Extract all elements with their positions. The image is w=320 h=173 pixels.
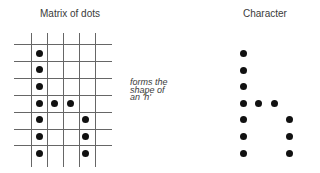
dot bbox=[36, 133, 43, 140]
character-title: Character bbox=[243, 8, 287, 20]
dot bbox=[286, 116, 293, 123]
dot bbox=[36, 100, 43, 107]
dot bbox=[67, 100, 74, 107]
dot bbox=[82, 133, 89, 140]
dot bbox=[82, 150, 89, 157]
dot bbox=[36, 116, 43, 123]
grid-vertical-line bbox=[95, 33, 96, 167]
dot bbox=[36, 66, 43, 73]
dot bbox=[286, 133, 293, 140]
dot bbox=[240, 133, 247, 140]
dot bbox=[286, 150, 293, 157]
dot bbox=[240, 100, 247, 107]
caption: forms the shape of an 'h' bbox=[130, 79, 168, 102]
dot bbox=[240, 50, 247, 57]
grid-vertical-line bbox=[63, 33, 64, 167]
dot bbox=[271, 100, 278, 107]
dot bbox=[36, 150, 43, 157]
grid-vertical-line bbox=[47, 33, 48, 167]
dot bbox=[255, 100, 262, 107]
dot bbox=[240, 150, 247, 157]
dot bbox=[240, 83, 247, 90]
dot bbox=[82, 116, 89, 123]
dot bbox=[36, 50, 43, 57]
dot bbox=[51, 100, 58, 107]
dot bbox=[240, 116, 247, 123]
grid-vertical-line bbox=[31, 33, 32, 167]
dot bbox=[240, 67, 247, 74]
dot bbox=[36, 83, 43, 90]
grid-vertical-line bbox=[79, 33, 80, 167]
caption-line-3: an 'h' bbox=[130, 94, 168, 102]
matrix-title: Matrix of dots bbox=[40, 8, 100, 20]
